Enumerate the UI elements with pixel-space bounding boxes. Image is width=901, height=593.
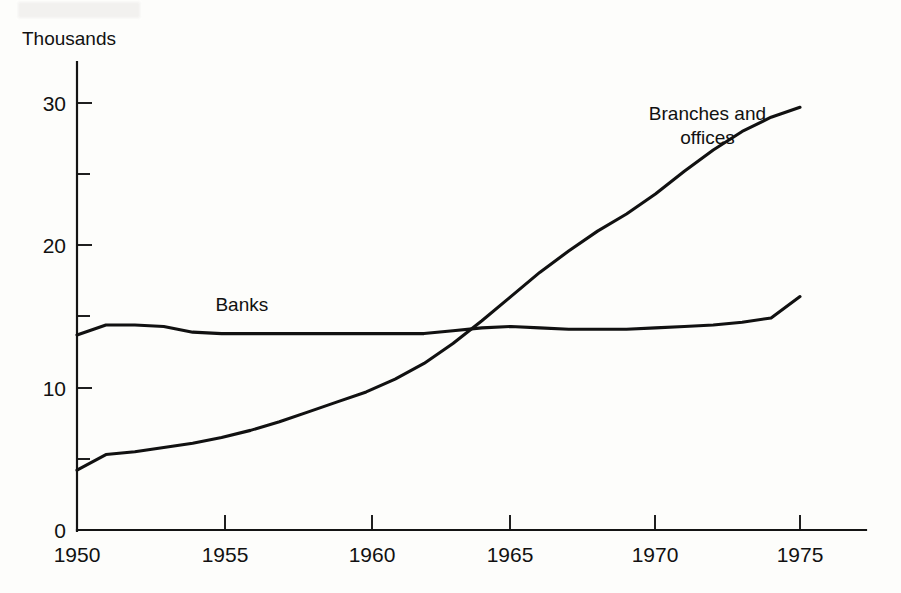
series-annotation-branches-line2: offices	[680, 127, 735, 148]
x-tick-label-1950: 1950	[54, 543, 101, 566]
y-tick-label-10: 10	[43, 377, 66, 400]
x-tick-label-1970: 1970	[632, 543, 679, 566]
series-annotation-branches-line1: Branches and	[649, 103, 766, 124]
x-tick-label-1975: 1975	[777, 543, 824, 566]
series-annotation-banks: Banks	[215, 294, 268, 315]
y-axis-unit-label: Thousands	[22, 28, 116, 49]
chart-figure: 30 20 10 0 1950 1955 1960 1965 1970 1975…	[0, 0, 901, 593]
x-tick-label-1960: 1960	[349, 543, 396, 566]
y-tick-label-20: 20	[43, 234, 66, 257]
series-line-banks	[77, 297, 800, 335]
y-tick-label-30: 30	[43, 92, 66, 115]
x-tick-label-1955: 1955	[202, 543, 249, 566]
x-tick-label-1965: 1965	[487, 543, 534, 566]
series-line-branches-and-offices	[77, 107, 800, 470]
y-tick-label-0: 0	[54, 519, 66, 542]
line-chart-canvas: 30 20 10 0 1950 1955 1960 1965 1970 1975…	[0, 0, 901, 593]
